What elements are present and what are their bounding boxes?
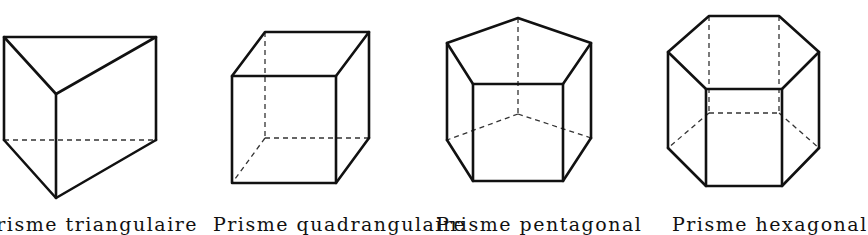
triangular-prism-label: Prisme triangulaire bbox=[0, 213, 198, 235]
quadrangular-prism-drawing bbox=[232, 32, 369, 183]
hexagonal-prism-label: Prisme hexagonal bbox=[672, 213, 868, 235]
triangular-prism-drawing bbox=[4, 37, 156, 198]
quadrangular-prism-label: Prisme quadrangulaire bbox=[213, 213, 466, 235]
pentagonal-prism-drawing bbox=[447, 18, 591, 181]
pentagonal-prism-label: Prisme pentagonal bbox=[436, 213, 642, 235]
hexagonal-prism-drawing bbox=[668, 16, 819, 186]
